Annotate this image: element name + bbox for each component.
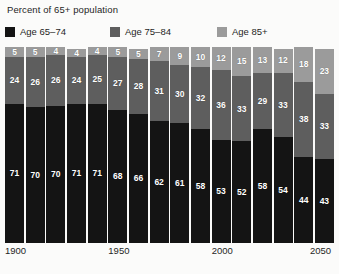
segment-1950-series-1[interactable]: 27 [108,57,127,110]
segment-value-label: 4 [74,49,79,57]
segment-1990-series-2[interactable]: 10 [191,47,210,67]
segment-value-label: 58 [258,182,267,191]
segment-1960-series-0[interactable]: 66 [129,114,148,243]
segment-value-label: 33 [237,105,246,114]
segment-value-label: 12 [278,56,287,65]
bar-1980[interactable]: 93061 [170,47,189,243]
segment-2020-series-0[interactable]: 58 [253,129,272,243]
segment-value-label: 71 [92,169,101,178]
segment-value-label: 5 [136,50,141,59]
segment-value-label: 28 [134,82,143,91]
segment-2040-series-0[interactable]: 44 [294,157,313,243]
segment-1930-series-2[interactable]: 4 [67,49,86,57]
segment-1960-series-2[interactable]: 5 [129,49,148,59]
segment-2010-series-1[interactable]: 33 [232,76,251,141]
segment-2010-series-0[interactable]: 52 [232,141,251,243]
segment-1950-series-2[interactable]: 5 [108,47,127,57]
legend-item-age-65-74: Age 65–74 [5,25,66,39]
bar-2050[interactable]: 233343 [315,47,334,243]
x-axis: 1900195020002050 [5,245,334,259]
segment-1940-series-1[interactable]: 25 [88,55,107,104]
segment-2050-series-0[interactable]: 43 [315,159,334,243]
segment-2030-series-1[interactable]: 33 [274,73,293,138]
x-axis-tick-1950: 1950 [108,245,129,256]
segment-value-label: 26 [51,76,60,85]
bar-2040[interactable]: 183844 [294,47,313,243]
segment-1920-series-0[interactable]: 70 [46,106,65,243]
segment-value-label: 32 [196,94,205,103]
segment-value-label: 31 [154,87,163,96]
segment-1910-series-0[interactable]: 70 [26,107,45,243]
segment-value-label: 24 [10,76,19,85]
segment-1940-series-2[interactable]: 4 [88,47,107,55]
bar-2010[interactable]: 153352 [232,47,251,243]
segment-value-label: 4 [53,47,58,55]
segment-value-label: 33 [320,122,329,131]
bar-1960[interactable]: 52866 [129,47,148,243]
segment-1990-series-0[interactable]: 58 [191,129,210,243]
segment-1940-series-0[interactable]: 71 [88,104,107,243]
segment-2000-series-0[interactable]: 53 [212,140,231,243]
segment-1990-series-1[interactable]: 32 [191,67,210,130]
bar-1990[interactable]: 103258 [191,47,210,243]
segment-1910-series-2[interactable]: 5 [26,47,45,57]
segment-1930-series-0[interactable]: 71 [67,104,86,243]
bar-1940[interactable]: 42571 [88,47,107,243]
segment-value-label: 9 [177,52,182,61]
segment-2020-series-1[interactable]: 29 [253,73,272,130]
segment-1900-series-1[interactable]: 24 [5,57,24,104]
segment-value-label: 23 [320,67,329,76]
segment-1910-series-1[interactable]: 26 [26,57,45,107]
segment-value-label: 30 [175,90,184,99]
bar-1920[interactable]: 42670 [46,47,65,243]
segment-1920-series-1[interactable]: 26 [46,55,65,106]
segment-value-label: 68 [113,172,122,181]
segment-1960-series-1[interactable]: 28 [129,59,148,114]
segment-1970-series-1[interactable]: 31 [150,61,169,122]
bar-1930[interactable]: 42471 [67,47,86,243]
segment-1980-series-1[interactable]: 30 [170,65,189,124]
segment-2000-series-2[interactable]: 12 [212,47,231,70]
segment-value-label: 7 [157,50,162,59]
segment-value-label: 27 [113,79,122,88]
segment-value-label: 53 [216,187,225,196]
bar-1970[interactable]: 73162 [150,47,169,243]
segment-1930-series-1[interactable]: 24 [67,57,86,104]
bar-2030[interactable]: 123354 [274,47,293,243]
segment-1900-series-2[interactable]: 5 [5,47,24,57]
segment-value-label: 33 [278,101,287,110]
segment-2030-series-2[interactable]: 12 [274,49,293,73]
segment-2040-series-2[interactable]: 18 [294,47,313,82]
segment-value-label: 54 [278,186,287,195]
segment-2030-series-0[interactable]: 54 [274,137,293,243]
bar-1910[interactable]: 52670 [26,47,45,243]
segment-1900-series-0[interactable]: 71 [5,104,24,243]
segment-1980-series-0[interactable]: 61 [170,123,189,243]
segment-2040-series-1[interactable]: 38 [294,82,313,156]
segment-value-label: 66 [134,174,143,183]
segment-value-label: 5 [115,48,120,57]
bar-2000[interactable]: 123653 [212,47,231,243]
plot-area: 5247152670426704247142571527685286673162… [5,47,334,243]
segment-1970-series-0[interactable]: 62 [150,121,169,243]
segment-2010-series-2[interactable]: 15 [232,47,251,76]
bar-1900[interactable]: 52471 [5,47,24,243]
segment-2020-series-2[interactable]: 13 [253,47,272,72]
legend-label-age-85-plus: Age 85+ [232,27,268,37]
segment-1970-series-2[interactable]: 7 [150,47,169,61]
segment-2050-series-1[interactable]: 33 [315,94,334,159]
segment-value-label: 61 [175,179,184,188]
segment-1950-series-0[interactable]: 68 [108,110,127,243]
chart-legend: Age 65–74 Age 75–84 Age 85+ [5,25,334,39]
segment-value-label: 10 [196,53,205,62]
bar-1950[interactable]: 52768 [108,47,127,243]
segment-value-label: 13 [258,56,267,65]
bar-2020[interactable]: 132958 [253,47,272,243]
segment-1920-series-2[interactable]: 4 [46,47,65,55]
legend-swatch-age-65-74 [5,27,15,37]
segment-2000-series-1[interactable]: 36 [212,70,231,140]
segment-1980-series-2[interactable]: 9 [170,47,189,65]
segment-2050-series-2[interactable]: 23 [315,49,334,94]
segment-value-label: 71 [10,169,19,178]
segment-value-label: 15 [237,57,246,66]
